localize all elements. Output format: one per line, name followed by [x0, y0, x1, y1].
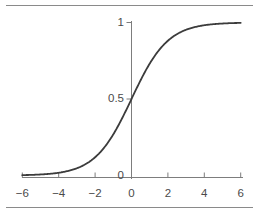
- figure-container: −6−4−20246 10.50: [0, 0, 259, 213]
- logistic-curve-plot: [0, 0, 259, 213]
- x-tick-label: 4: [201, 188, 207, 200]
- x-tick-label: 0: [128, 188, 134, 200]
- x-tick-label: −4: [52, 188, 65, 200]
- x-tick-label: 2: [165, 188, 171, 200]
- axes-group: [22, 21, 243, 179]
- y-tick-label: 0.5: [108, 93, 124, 105]
- y-tick-label: 1: [118, 17, 124, 29]
- y-tick-label: 0: [118, 170, 124, 182]
- bottom-divider-rule: [6, 207, 253, 208]
- y-tick-marks: [127, 23, 132, 100]
- x-tick-label: −6: [16, 188, 29, 200]
- x-tick-label: −2: [89, 188, 102, 200]
- x-tick-label: 6: [237, 188, 243, 200]
